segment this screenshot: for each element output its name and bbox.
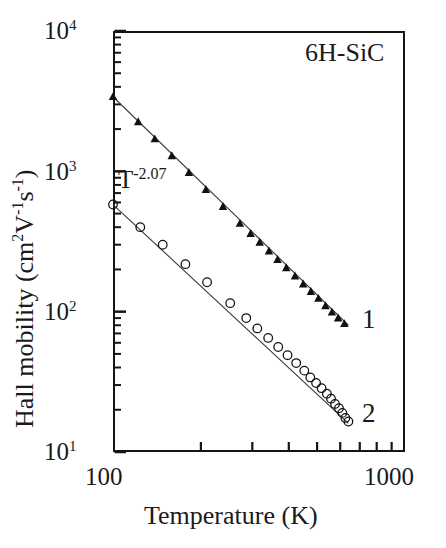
y-tick-label-10000: 104 xyxy=(44,18,77,43)
series-label-1: 1 xyxy=(362,304,376,335)
series-label-2: 2 xyxy=(362,398,376,429)
sample-label: 6H-SiC xyxy=(305,38,384,68)
x-tick-label-1000: 1000 xyxy=(364,464,414,489)
x-tick-label-100: 100 xyxy=(85,464,123,489)
y-axis-title: Hall mobility (cm2V-1s-1) xyxy=(10,169,40,428)
y-tick-label-1000: 103 xyxy=(44,159,77,184)
plot-frame xyxy=(113,31,405,452)
y-tick-label-100: 102 xyxy=(44,299,77,324)
chart-figure: 104 103 102 101 100 1000 Temperature (K)… xyxy=(0,0,446,548)
power-law-annotation: T-2.07 xyxy=(118,166,167,194)
x-axis-title: Temperature (K) xyxy=(144,501,318,531)
y-tick-label-10: 101 xyxy=(44,439,77,464)
